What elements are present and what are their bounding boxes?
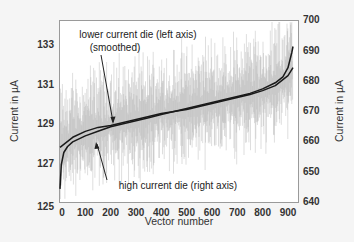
left-y-axis-label: Current in µA xyxy=(8,80,20,142)
annotation-lower-current-line1: lower current die (left axis) xyxy=(79,29,196,40)
right-y-tick-label: 670 xyxy=(303,105,320,116)
x-tick-label: 300 xyxy=(128,207,145,218)
x-axis-label: Vector number xyxy=(145,215,214,227)
x-tick-label: 800 xyxy=(254,207,271,218)
left-y-tick-label: 129 xyxy=(37,118,54,129)
chart: 0100200300400500600700800900 12512712913… xyxy=(0,0,354,242)
x-tick-label: 0 xyxy=(59,207,65,218)
left-y-tick-label: 125 xyxy=(37,201,54,212)
annotation-high-current: high current die (right axis) xyxy=(119,180,237,191)
annotation-lower-current-line2: (smoothed) xyxy=(90,42,141,53)
right-y-tick-label: 640 xyxy=(303,196,320,207)
right-y-tick-label: 680 xyxy=(303,75,320,86)
left-y-tick-label: 131 xyxy=(37,79,54,90)
right-y-tick-label: 650 xyxy=(303,166,320,177)
right-y-tick-label: 690 xyxy=(303,45,320,56)
left-y-tick-label: 133 xyxy=(37,39,54,50)
left-y-tick-label: 127 xyxy=(37,158,54,169)
x-tick-label: 700 xyxy=(229,207,246,218)
right-y-tick-label: 660 xyxy=(303,135,320,146)
x-tick-label: 900 xyxy=(280,207,297,218)
x-tick-label: 200 xyxy=(102,207,119,218)
right-y-axis-label: Current in µA xyxy=(333,80,345,142)
x-tick-label: 100 xyxy=(77,207,94,218)
right-y-tick-label: 700 xyxy=(303,14,320,25)
